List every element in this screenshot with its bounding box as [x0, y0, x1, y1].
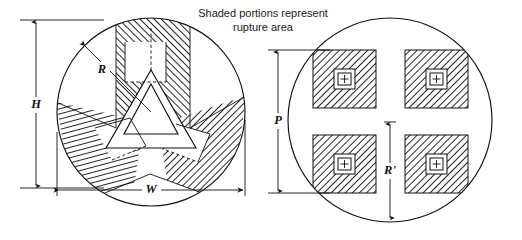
- left-notch-top: [125, 42, 166, 82]
- technical-diagram: Shaded portions represent rupture area: [0, 0, 522, 240]
- right-square-top-right: [405, 50, 468, 108]
- right-square-bottom-left: [313, 135, 376, 193]
- figure-root: Shaded portions represent rupture area: [0, 0, 522, 240]
- caption-line-1: Shaded portions represent: [198, 7, 328, 19]
- caption-line-2: rupture area: [233, 21, 294, 33]
- left-dim-R-label: R: [97, 62, 106, 76]
- right-square-bottom-right: [405, 135, 468, 193]
- left-dim-W-label: W: [145, 182, 157, 196]
- right-dim-P-label: P: [274, 113, 282, 127]
- left-dim-H-label: H: [30, 97, 42, 111]
- right-dim-Rp-label: R': [383, 163, 396, 177]
- right-square-top-left: [313, 50, 376, 108]
